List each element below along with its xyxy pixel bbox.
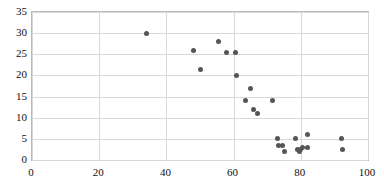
- gridline-horizontal: [32, 118, 368, 119]
- data-point: [191, 48, 196, 53]
- gridline-vertical: [32, 12, 33, 160]
- plot-area: [31, 11, 369, 161]
- data-point: [305, 132, 310, 137]
- data-point: [243, 98, 248, 103]
- x-axis-tick-label: 20: [93, 167, 104, 178]
- data-point: [144, 31, 149, 36]
- y-axis-tick-label: 30: [16, 27, 27, 38]
- x-axis-tick-label: 100: [359, 167, 376, 178]
- gridline-horizontal: [32, 54, 368, 55]
- gridline-vertical: [368, 12, 369, 160]
- data-point: [339, 136, 344, 141]
- y-axis-tick-label: 25: [16, 48, 27, 59]
- data-point: [270, 98, 275, 103]
- data-point: [280, 143, 285, 148]
- data-point: [198, 67, 203, 72]
- gridline-vertical: [234, 12, 235, 160]
- data-point: [233, 50, 238, 55]
- data-point: [305, 145, 310, 150]
- x-axis-tick-labels: 020406080100: [31, 167, 369, 183]
- gridline-horizontal: [32, 75, 368, 76]
- y-axis-tick-label: 10: [16, 111, 27, 122]
- data-point: [255, 111, 260, 116]
- data-point: [234, 73, 239, 78]
- gridline-vertical: [166, 12, 167, 160]
- x-axis-tick-label: 40: [160, 167, 171, 178]
- gridline-horizontal: [32, 33, 368, 34]
- data-point: [340, 147, 345, 152]
- y-axis-tick-labels: 05101520253035: [0, 11, 27, 161]
- gridline-horizontal: [32, 139, 368, 140]
- y-axis-tick-label: 15: [16, 90, 27, 101]
- data-point: [275, 136, 280, 141]
- gridline-vertical: [301, 12, 302, 160]
- scatter-chart: 05101520253035 020406080100: [0, 0, 384, 192]
- gridline-vertical: [99, 12, 100, 160]
- x-axis-tick-label: 0: [28, 167, 34, 178]
- y-axis-tick-label: 20: [16, 69, 27, 80]
- data-point: [282, 149, 287, 154]
- data-point: [293, 136, 298, 141]
- x-axis-tick-label: 80: [294, 167, 305, 178]
- data-point: [248, 86, 253, 91]
- y-axis-tick-label: 5: [22, 132, 28, 143]
- gridline-horizontal: [32, 12, 368, 13]
- x-axis-tick-label: 60: [227, 167, 238, 178]
- gridline-horizontal: [32, 97, 368, 98]
- y-axis-tick-label: 0: [22, 154, 28, 165]
- gridline-horizontal: [32, 160, 368, 161]
- y-axis-tick-label: 35: [16, 6, 27, 17]
- data-point: [216, 39, 221, 44]
